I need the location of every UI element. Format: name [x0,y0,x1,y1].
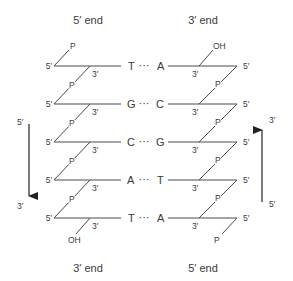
bottom-left-end-label: 3′ end [73,262,103,274]
arrow-end-label: 3′ [17,201,24,211]
base: C [156,98,164,110]
pair-connector: ··· [139,97,150,109]
phosphate-label: P [215,193,221,203]
three-prime-label: 3′ [192,183,199,193]
dna-antiparallel-diagram: 5′ end 3′ end 3′ end 5′ end P 5′ 3′ T 5′… [0,0,293,281]
five-prime-label: 5′ [46,99,53,109]
base: A [157,212,165,224]
right-row-5: A 3′ 5′ [157,212,250,231]
base: T [128,212,135,224]
pair-connectors: ··· ··· ··· ··· ··· [139,59,150,223]
bottom-right-end-label: 5′ end [188,262,218,274]
arrow-start-label: 5′ [269,199,276,209]
five-prime-label: 5′ [46,213,53,223]
pair-connector: ··· [139,211,150,223]
left-row-1: 5′ 3′ T [46,60,135,79]
three-prime-label: 3′ [92,221,99,231]
base: A [157,60,165,72]
left-bottom-terminal: OH [68,235,81,245]
right-row-3: G 3′ 5′ [156,136,250,155]
right-top-terminal: OH [213,41,226,51]
left-row-3: 5′ 3′ C [46,136,135,155]
base: T [128,60,135,72]
five-prime-label: 5′ [243,175,250,185]
five-prime-label: 5′ [46,137,53,147]
phosphate-label: P [215,155,221,165]
three-prime-label: 3′ [92,107,99,117]
top-right-end-label: 3′ end [188,14,218,26]
five-prime-label: 5′ [46,61,53,71]
base: G [156,136,165,148]
arrow-end-label: 3′ [269,115,276,125]
right-row-1: A 3′ 5′ [157,60,250,79]
base: A [127,174,135,186]
three-prime-label: 3′ [92,145,99,155]
five-prime-label: 5′ [46,175,53,185]
top-left-end-label: 5′ end [73,14,103,26]
phosphate-label: P [69,194,75,204]
left-top-terminal: P [70,41,76,51]
five-prime-label: 5′ [243,213,250,223]
phosphate-label: P [69,118,75,128]
phosphate-label: P [69,156,75,166]
right-row-2: C 3′ 5′ [156,98,250,117]
pair-connector: ··· [139,173,150,185]
three-prime-label: 3′ [92,69,99,79]
base: T [157,174,164,186]
three-prime-label: 3′ [192,221,199,231]
five-prime-label: 5′ [243,137,250,147]
left-row-2: 5′ 3′ G [46,98,136,117]
pair-connector: ··· [139,135,150,147]
three-prime-label: 3′ [192,145,199,155]
three-prime-label: 3′ [192,69,199,79]
phosphate-label: P [215,117,221,127]
three-prime-label: 3′ [92,183,99,193]
left-direction-arrow: 5′ 3′ [17,117,29,211]
five-prime-label: 5′ [243,61,250,71]
left-strand: P 5′ 3′ T 5′ 3′ G 5′ 3′ C 5′ 3′ A 5′ [46,41,136,245]
phosphate-label: P [69,80,75,90]
phosphate-label: P [215,79,221,89]
right-strand: OH A 3′ 5′ C 3′ 5′ G 3′ 5′ T 3′ 5′ A [156,41,250,245]
three-prime-label: 3′ [192,107,199,117]
pair-connector: ··· [139,59,150,71]
right-row-4: T 3′ 5′ [157,174,250,193]
base: G [127,98,136,110]
left-row-4: 5′ 3′ A [46,174,135,193]
left-row-5: 5′ 3′ T [46,212,135,231]
right-direction-arrow: 3′ 5′ [262,115,276,209]
arrow-start-label: 5′ [17,117,24,127]
right-bottom-terminal: P [214,235,220,245]
five-prime-label: 5′ [243,99,250,109]
base: C [127,136,135,148]
